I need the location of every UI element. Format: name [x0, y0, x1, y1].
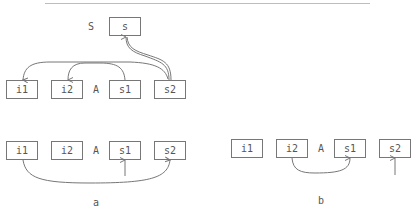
arrow-s2-to-s [126, 37, 169, 80]
arrow-s1-to-i2 [68, 63, 125, 80]
arrow-a-i1-to-s2 [23, 160, 170, 183]
arrows-layer [0, 0, 416, 224]
arrow-s2-to-i1 [23, 62, 168, 80]
arrow-b-i2-to-s1 [292, 158, 350, 173]
